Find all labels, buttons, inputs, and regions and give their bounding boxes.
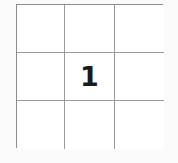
grid-3x3: 1 [16, 4, 163, 148]
grid-cell-r2c1[interactable] [17, 53, 65, 101]
grid-cell-r3c3[interactable] [115, 101, 164, 149]
grid-cell-r2c3[interactable] [115, 53, 164, 101]
cell-value: 1 [80, 63, 99, 90]
grid-cell-r3c2[interactable] [65, 101, 115, 149]
grid-cell-r1c3[interactable] [115, 5, 164, 53]
grid-cell-r3c1[interactable] [17, 101, 65, 149]
grid-cell-r2c2[interactable]: 1 [65, 53, 115, 101]
grid-cell-r1c1[interactable] [17, 5, 65, 53]
grid-cell-r1c2[interactable] [65, 5, 115, 53]
puzzle-root: 1 [0, 0, 178, 163]
